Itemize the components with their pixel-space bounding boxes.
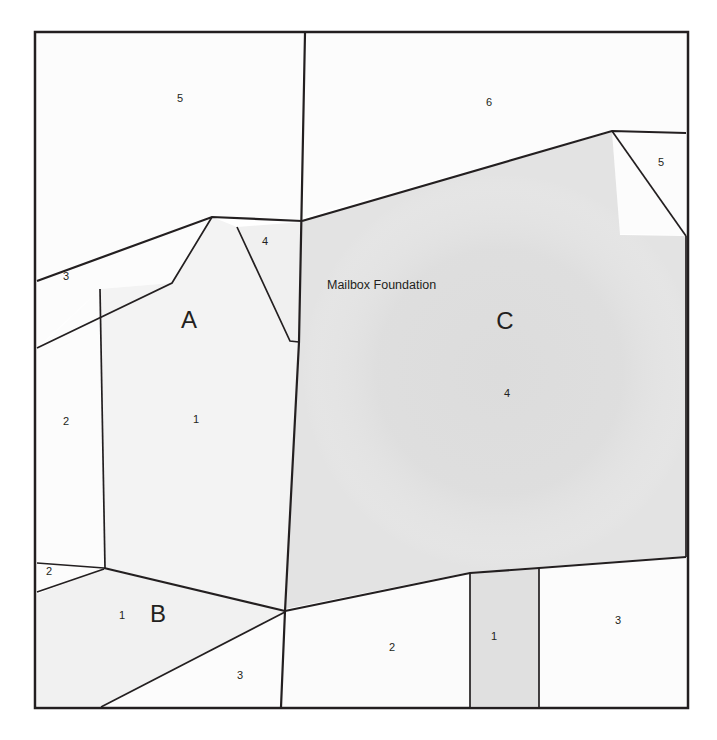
block-c: C [496, 307, 513, 334]
lot-bottom-right-3: 3 [615, 614, 621, 626]
lot-a-1: 1 [193, 413, 199, 425]
block-b: B [150, 600, 166, 627]
lot-mid-4: 4 [262, 235, 268, 247]
block-a: A [181, 306, 197, 333]
lot-b-1: 1 [119, 609, 125, 621]
lot-bottom-2: 2 [389, 641, 395, 653]
parcel-bottom-1 [470, 568, 539, 706]
plat-drawing: 56534214213213 ABC Mailbox Foundation [0, 0, 717, 740]
lot-left-2: 2 [63, 415, 69, 427]
plat-sheet: Survey plat sheet — parcel subdivision [0, 0, 717, 740]
map-annotations: Mailbox Foundation [327, 278, 436, 292]
lot-left-small-2: 2 [46, 565, 52, 577]
lot-right-5: 5 [658, 156, 664, 168]
lot-bottom-3: 3 [237, 669, 243, 681]
lot-top-right-6: 6 [486, 96, 492, 108]
lot-c-4: 4 [504, 387, 510, 399]
lot-left-3: 3 [63, 270, 69, 282]
mailbox-foundation-label: Mailbox Foundation [327, 278, 436, 292]
lot-bottom-1: 1 [491, 630, 497, 642]
parcel-bottom-right-3 [540, 558, 686, 706]
lot-top-left-5: 5 [177, 92, 183, 104]
